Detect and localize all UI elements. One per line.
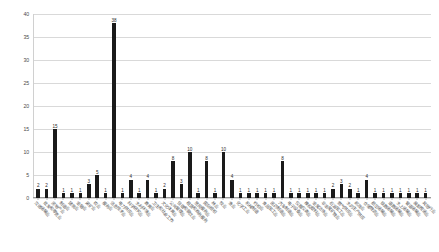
bar-slot[interactable]: 1 (304, 14, 312, 198)
x-label-slot: 化学工业 (236, 200, 244, 252)
bar-slot[interactable]: 1 (194, 14, 202, 198)
y-axis-tick-label: 25 (23, 80, 29, 86)
bar-value-label: 1 (71, 188, 74, 193)
x-label-slot: 国际组织 (202, 200, 210, 252)
bar[interactable] (331, 189, 335, 198)
bar-value-label: 1 (315, 188, 318, 193)
bar-slot[interactable]: 1 (135, 14, 143, 198)
x-label-slot: 仓储物流业 (362, 200, 370, 252)
bar-value-label: 1 (357, 188, 360, 193)
bar-slot[interactable]: 1 (287, 14, 295, 198)
bar[interactable] (365, 180, 369, 198)
x-label-slot: 汽车制造业 (278, 200, 286, 252)
bar-slot[interactable]: 1 (421, 14, 429, 198)
bar-slot[interactable]: 4 (127, 14, 135, 198)
bar-slot[interactable]: 10 (219, 14, 227, 198)
bar-slot[interactable]: 1 (354, 14, 362, 198)
bar[interactable] (95, 175, 99, 198)
y-axis-tick-label: 40 (23, 11, 29, 17)
bar-slot[interactable]: 2 (346, 14, 354, 198)
x-label-slot: 仪器仪表业 (295, 200, 303, 252)
bar-slot[interactable]: 1 (261, 14, 269, 198)
bar-slot[interactable]: 4 (362, 14, 370, 198)
bar-value-label: 1 (121, 188, 124, 193)
bar-value-label: 3 (340, 179, 343, 184)
bar-slot[interactable]: 15 (51, 14, 59, 198)
x-label-slot: 水上运输业 (396, 200, 404, 252)
x-label-slot: 渔业 (228, 200, 236, 252)
y-axis-tick-label: 10 (23, 149, 29, 155)
x-label-slot: 交通运输业 (34, 200, 42, 252)
bar-slot[interactable]: 4 (143, 14, 151, 198)
bar-slot[interactable]: 1 (396, 14, 404, 198)
x-label-slot: 建筑业 (68, 200, 76, 252)
bar[interactable] (348, 189, 352, 198)
bar-slot[interactable]: 1 (312, 14, 320, 198)
bar-slot[interactable]: 1 (68, 14, 76, 198)
bar-slot[interactable]: 1 (295, 14, 303, 198)
x-label-slot: 房地产业 (51, 200, 59, 252)
bar-slot[interactable]: 8 (169, 14, 177, 198)
bar-value-label: 1 (256, 188, 259, 193)
bar-slot[interactable]: 38 (110, 14, 118, 198)
bar-slot[interactable]: 1 (371, 14, 379, 198)
bar-slot[interactable]: 5 (93, 14, 101, 198)
bar-slot[interactable]: 3 (85, 14, 93, 198)
bar-slot[interactable]: 2 (34, 14, 42, 198)
x-label-slot: 服务业 (101, 200, 109, 252)
bar-slot[interactable]: 1 (211, 14, 219, 198)
bar-slot[interactable]: 2 (42, 14, 50, 198)
x-label-slot: 机械制造 (245, 200, 253, 252)
bar-slot[interactable]: 1 (236, 14, 244, 198)
bar-slot[interactable]: 1 (413, 14, 421, 198)
bar-slot[interactable]: 1 (245, 14, 253, 198)
bar-value-label: 1 (407, 188, 410, 193)
bar-slot[interactable]: 1 (405, 14, 413, 198)
bar-slot[interactable]: 8 (202, 14, 210, 198)
bar[interactable] (112, 23, 116, 198)
x-axis-labels: 交通运输业批发和零售业房地产业制造业建筑业金融业采矿业农业服务业信息技术业电力供… (33, 200, 431, 252)
bar-slot[interactable]: 1 (152, 14, 160, 198)
bar[interactable] (146, 180, 150, 198)
bar-slot[interactable]: 4 (228, 14, 236, 198)
bar-value-label: 2 (37, 183, 40, 188)
bar[interactable] (230, 180, 234, 198)
bar-slot[interactable]: 1 (253, 14, 261, 198)
bar-slot[interactable]: 1 (101, 14, 109, 198)
x-label-slot: 批发和零售业 (42, 200, 50, 252)
bar-slot[interactable]: 3 (337, 14, 345, 198)
bar-value-label: 1 (104, 188, 107, 193)
bar[interactable] (163, 189, 167, 198)
bar-slot[interactable]: 3 (177, 14, 185, 198)
bar-slot[interactable]: 1 (270, 14, 278, 198)
bar[interactable] (222, 152, 226, 198)
bar-slot[interactable]: 2 (160, 14, 168, 198)
bar-slot[interactable]: 1 (76, 14, 84, 198)
bars-container: 2215111351381414128310181104111118111112… (33, 14, 431, 198)
bar[interactable] (129, 180, 133, 198)
x-label-slot: 采矿业 (85, 200, 93, 252)
bar[interactable] (281, 161, 285, 198)
bar[interactable] (53, 129, 57, 198)
bar-slot[interactable]: 1 (59, 14, 67, 198)
bar[interactable] (45, 189, 49, 198)
bar-value-label: 4 (231, 174, 234, 179)
bar-slot[interactable]: 1 (118, 14, 126, 198)
y-axis-tick-label: 15 (23, 126, 29, 132)
bar[interactable] (188, 152, 192, 198)
bar-slot[interactable]: 8 (278, 14, 286, 198)
bar-slot[interactable]: 2 (329, 14, 337, 198)
bar-value-label: 1 (323, 188, 326, 193)
bar[interactable] (36, 189, 40, 198)
bar[interactable] (171, 161, 175, 198)
bar-slot[interactable]: 10 (186, 14, 194, 198)
bar[interactable] (205, 161, 209, 198)
bar[interactable] (87, 184, 91, 198)
bar-value-label: 4 (130, 174, 133, 179)
bar-slot[interactable]: 1 (320, 14, 328, 198)
bar[interactable] (340, 184, 344, 198)
bar[interactable] (180, 184, 184, 198)
bar-slot[interactable]: 1 (388, 14, 396, 198)
bar-value-label: 1 (214, 188, 217, 193)
bar-slot[interactable]: 1 (379, 14, 387, 198)
